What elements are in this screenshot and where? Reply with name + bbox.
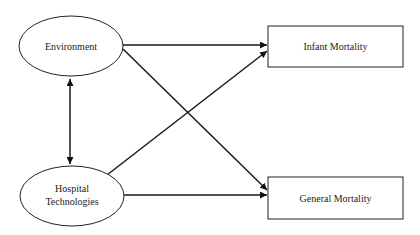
hospital-technologies-label-line2: Technologies (45, 196, 98, 207)
general-mortality-label: General Mortality (300, 193, 372, 204)
node-environment: Environment (19, 16, 123, 76)
infant-mortality-label: Infant Mortality (303, 41, 367, 52)
node-hospital-technologies: Hospital Technologies (20, 166, 124, 226)
edge-hospital-to-infant-mortality (107, 51, 267, 175)
hospital-technologies-label-line1: Hospital (55, 183, 89, 194)
edge-environment-to-general-mortality (123, 49, 267, 190)
environment-label: Environment (45, 41, 97, 52)
path-diagram: Environment Hospital Technologies Infant… (0, 0, 420, 235)
node-general-mortality: General Mortality (268, 177, 403, 219)
node-infant-mortality: Infant Mortality (268, 26, 403, 67)
